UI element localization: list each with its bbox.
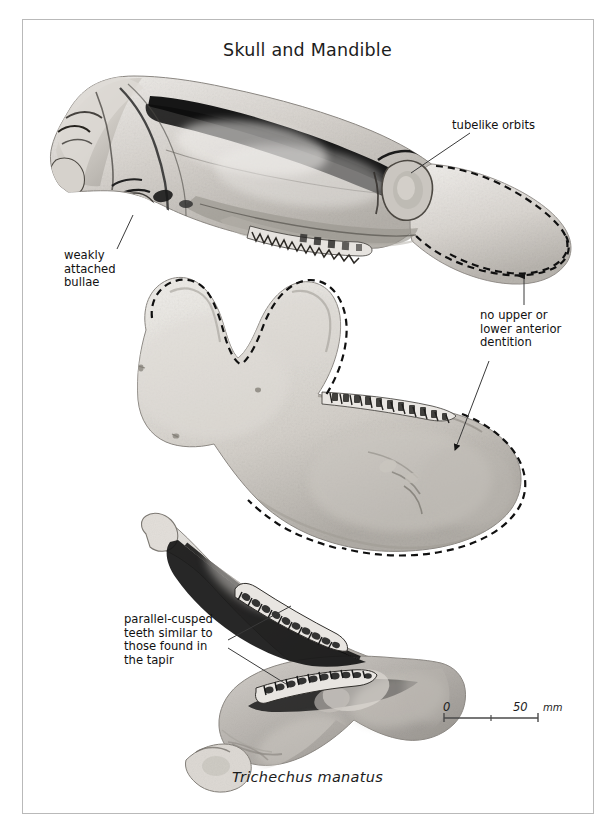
scale-bar-min-label: 0 — [443, 700, 450, 714]
annotation-tubelike-orbits: tubelike orbits — [452, 119, 535, 133]
leader-bullae — [117, 215, 133, 249]
specimen-skull-lateral — [49, 76, 571, 284]
species-caption: Trichechus manatus — [0, 769, 615, 785]
illustration-plate: Skull and Mandible — [0, 0, 615, 834]
scale-bar-unit-label: mm — [543, 702, 562, 713]
scale-bar-max-label: 50 — [513, 700, 528, 714]
specimen-mandible-lateral — [134, 277, 525, 555]
annotation-parallel-cusped-teeth: parallel-cusped teeth similar to those f… — [124, 613, 213, 667]
annotation-no-anterior-dentition: no upper or lower anterior dentition — [480, 309, 561, 350]
annotation-weakly-attached-bullae: weakly attached bullae — [64, 249, 116, 290]
